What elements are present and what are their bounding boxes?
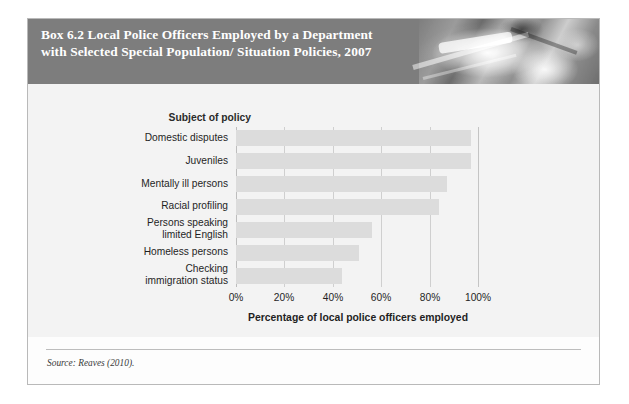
bar-row xyxy=(236,268,478,284)
bar-row xyxy=(236,130,478,146)
police-photo-image xyxy=(419,19,599,84)
bar-row xyxy=(236,222,478,238)
gridline-100 xyxy=(478,127,479,287)
category-label-line: Homeless persons xyxy=(38,246,228,258)
bar-7 xyxy=(236,268,342,284)
category-label-line: Domestic disputes xyxy=(38,132,228,144)
category-label: Domestic disputes xyxy=(38,132,228,144)
category-label-line: Persons speaking xyxy=(38,217,228,229)
category-label: Mentally ill persons xyxy=(38,178,228,190)
page-root: Box 6.2 Local Police Officers Employed b… xyxy=(0,0,629,404)
box-frame: Box 6.2 Local Police Officers Employed b… xyxy=(27,18,600,385)
source-divider xyxy=(46,349,581,350)
box-title: Box 6.2 Local Police Officers Employed b… xyxy=(41,26,381,60)
source-note: Source: Reaves (2010). xyxy=(47,358,134,368)
x-tick-label-80: 80% xyxy=(408,292,452,303)
bar-5 xyxy=(236,222,372,238)
x-tick-label-20: 20% xyxy=(262,292,306,303)
x-tick-label-40: 40% xyxy=(311,292,355,303)
bar-3 xyxy=(236,176,447,192)
bar-1 xyxy=(236,130,471,146)
bar-4 xyxy=(236,199,439,215)
chart-panel: Subject of policy Domestic disputesJuven… xyxy=(28,84,599,337)
category-label-line: limited English xyxy=(38,229,228,241)
category-label: Juveniles xyxy=(38,155,228,167)
bar-2 xyxy=(236,153,471,169)
x-tick-label-100: 100% xyxy=(456,292,500,303)
category-label-line: Juveniles xyxy=(38,155,228,167)
x-tick-label-60: 60% xyxy=(359,292,403,303)
category-label-line: Checking xyxy=(38,263,228,275)
x-axis-title: Percentage of local police officers empl… xyxy=(178,312,538,323)
bar-row xyxy=(236,176,478,192)
bar-row xyxy=(236,199,478,215)
box-header: Box 6.2 Local Police Officers Employed b… xyxy=(28,19,599,84)
category-label: Checkingimmigration status xyxy=(38,263,228,287)
category-label: Racial profiling xyxy=(38,200,228,212)
bar-row xyxy=(236,153,478,169)
bar-6 xyxy=(236,245,359,261)
category-label: Homeless persons xyxy=(38,246,228,258)
photo-shadow xyxy=(510,27,577,55)
category-label-line: Mentally ill persons xyxy=(38,178,228,190)
category-label-line: Racial profiling xyxy=(38,200,228,212)
x-tick-label-0: 0% xyxy=(214,292,258,303)
category-label-line: immigration status xyxy=(38,275,228,287)
category-label: Persons speakinglimited English xyxy=(38,217,228,241)
category-axis-title: Subject of policy xyxy=(136,112,251,123)
bar-row xyxy=(236,245,478,261)
plot-area xyxy=(236,127,478,287)
